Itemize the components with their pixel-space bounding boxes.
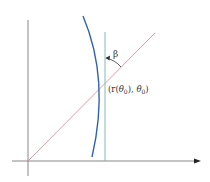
angle-label: β: [113, 49, 118, 59]
radial-line: [28, 33, 155, 161]
angle-arrow-icon: [106, 56, 111, 61]
polar-curve: [83, 16, 99, 157]
point-label: (r(θ0), θ0): [108, 84, 149, 95]
polar-tangent-diagram: β (r(θ0), θ0): [0, 0, 210, 182]
x-axis-arrow-icon: [194, 159, 201, 164]
